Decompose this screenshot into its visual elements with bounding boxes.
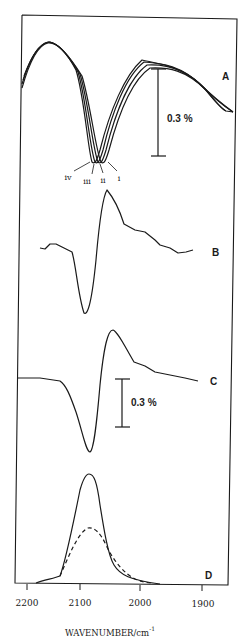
ir-spectra-figure: 2200 2100 2000 1900 WAVENUMBER/cm-1 iv i… [0, 0, 244, 642]
panel-b-curve [40, 190, 193, 313]
x-axis-label: WAVENUMBER/cm-1 [65, 625, 155, 638]
scale-label-a: 0.3 % [167, 113, 193, 124]
panel-label-c: C [210, 376, 217, 387]
series-label-iii: iii [83, 177, 91, 186]
tick-label-2000: 2000 [129, 598, 152, 608]
scale-bar-a [151, 69, 166, 156]
panel-d-dashed-curve [60, 528, 152, 583]
scale-label-c: 0.3 % [131, 397, 157, 408]
series-label-iv: iv [64, 173, 72, 182]
scale-bar-c [115, 379, 130, 427]
panel-a-curves [22, 42, 233, 163]
panel-c-curve [17, 330, 198, 452]
series-label-ii: ii [100, 176, 106, 185]
panel-d-solid-curve [36, 474, 160, 584]
roman-label-leaders [74, 162, 117, 174]
panel-label-d: D [205, 570, 212, 581]
panel-label-a: A [222, 71, 229, 82]
tick-label-1900: 1900 [192, 599, 215, 609]
panel-label-b: B [212, 247, 219, 258]
tick-label-2200: 2200 [16, 598, 39, 608]
tick-label-2100: 2100 [69, 598, 92, 608]
series-label-i: i [118, 174, 121, 183]
